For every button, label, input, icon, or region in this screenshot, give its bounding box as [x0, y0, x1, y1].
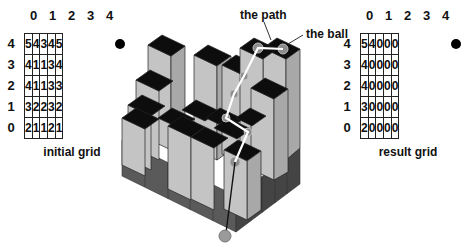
grid-cell: 3 [48, 76, 56, 97]
grid-cell: 4 [361, 76, 369, 97]
grid-row: 4 0 0 0 0 [361, 55, 399, 76]
initial-grid-table: 5 4 3 4 5 4 1 1 3 4 4 1 1 3 3 3 2 2 3 2 [24, 33, 63, 139]
grid-cell: 5 [55, 34, 63, 55]
row-label: 4 [2, 33, 20, 54]
col-label: 4 [100, 8, 119, 23]
grid-row: 3 0 0 0 0 [361, 97, 399, 118]
grid-cell: 4 [48, 34, 56, 55]
grid-cell: 4 [361, 55, 369, 76]
grid-row: 4 0 0 0 0 [361, 76, 399, 97]
grid-row: 3 2 2 3 2 [25, 97, 63, 118]
dropped-ball-icon [219, 230, 231, 242]
ball-label-leader [288, 35, 303, 44]
grid-cell: 0 [384, 34, 392, 55]
grid-cell: 0 [391, 55, 399, 76]
path-annotation: the path [240, 8, 287, 22]
grid-row: 5 4 0 0 0 [361, 34, 399, 55]
grid-cell: 3 [361, 97, 369, 118]
grid-cell: 0 [384, 97, 392, 118]
grid-cell: 1 [32, 76, 40, 97]
row-label: 4 [338, 33, 356, 54]
grid-cell: 4 [25, 55, 33, 76]
grid-cell: 4 [55, 55, 63, 76]
result-grid-row-labels: 4 3 2 1 0 [338, 33, 356, 138]
row-label: 0 [2, 117, 20, 138]
grid-cell: 0 [391, 118, 399, 139]
grid-row: 4 1 1 3 3 [25, 76, 63, 97]
result-grid-column-labels: 0 1 2 3 4 [360, 8, 455, 23]
initial-grid-column-labels: 0 1 2 3 4 [24, 8, 119, 23]
col-label: 1 [379, 8, 398, 23]
grid-cell: 0 [376, 76, 384, 97]
grid-cell: 0 [368, 118, 376, 139]
col-label: 3 [81, 8, 100, 23]
initial-grid-caption: initial grid [24, 145, 120, 159]
grid-cell: 1 [55, 118, 63, 139]
col-label: 2 [398, 8, 417, 23]
row-label: 3 [2, 54, 20, 75]
grid-cell: 3 [48, 97, 56, 118]
grid-cell: 3 [48, 55, 56, 76]
initial-grid-row-labels: 4 3 2 1 0 [2, 33, 20, 138]
grid-cell: 3 [55, 76, 63, 97]
grid-cell: 4 [368, 34, 376, 55]
grid-cell: 3 [40, 34, 48, 55]
grid-cell: 3 [25, 97, 33, 118]
ball-marker-icon [451, 39, 461, 49]
path-label-leader [264, 22, 271, 40]
grid-cell: 2 [40, 97, 48, 118]
col-label: 3 [417, 8, 436, 23]
grid-cell: 0 [368, 97, 376, 118]
grid-cell: 2 [25, 118, 33, 139]
row-label: 2 [338, 75, 356, 96]
col-label: 1 [43, 8, 62, 23]
grid-cell: 4 [25, 76, 33, 97]
row-label: 1 [338, 96, 356, 117]
grid-cell: 5 [25, 34, 33, 55]
grid-row: 2 1 1 2 1 [25, 118, 63, 139]
col-label: 0 [24, 8, 43, 23]
grid-cell: 0 [368, 76, 376, 97]
col-label: 2 [62, 8, 81, 23]
grid-cell: 0 [384, 55, 392, 76]
grid-cell: 0 [376, 55, 384, 76]
grid-cell: 2 [361, 118, 369, 139]
grid-row: 4 1 1 3 4 [25, 55, 63, 76]
grid-cell: 5 [361, 34, 369, 55]
grid-cell: 0 [391, 34, 399, 55]
grid-cell: 2 [32, 97, 40, 118]
grid-cell: 2 [48, 118, 56, 139]
grid-cell: 0 [391, 97, 399, 118]
row-label: 0 [338, 117, 356, 138]
grid-row: 2 0 0 0 0 [361, 118, 399, 139]
grid-cell: 0 [376, 34, 384, 55]
grid-cell: 0 [384, 76, 392, 97]
grid-cell: 2 [55, 97, 63, 118]
grid-cell: 1 [32, 55, 40, 76]
grid-row: 5 4 3 4 5 [25, 34, 63, 55]
row-label: 1 [2, 96, 20, 117]
col-label: 4 [436, 8, 455, 23]
col-label: 0 [360, 8, 379, 23]
grid-cell: 0 [376, 97, 384, 118]
grid-cell: 0 [368, 55, 376, 76]
row-label: 2 [2, 75, 20, 96]
grid-cell: 4 [32, 34, 40, 55]
grid-cell: 1 [40, 55, 48, 76]
row-label: 3 [338, 54, 356, 75]
result-grid-table: 5 4 0 0 0 4 0 0 0 0 4 0 0 0 0 3 0 0 0 0 [360, 33, 399, 139]
grid-cell: 1 [32, 118, 40, 139]
grid-cell: 0 [384, 118, 392, 139]
grid-cell: 0 [391, 76, 399, 97]
grid-cell: 1 [40, 118, 48, 139]
grid-cell: 0 [376, 118, 384, 139]
result-grid-caption: result grid [360, 145, 456, 159]
grid-cell: 1 [40, 76, 48, 97]
